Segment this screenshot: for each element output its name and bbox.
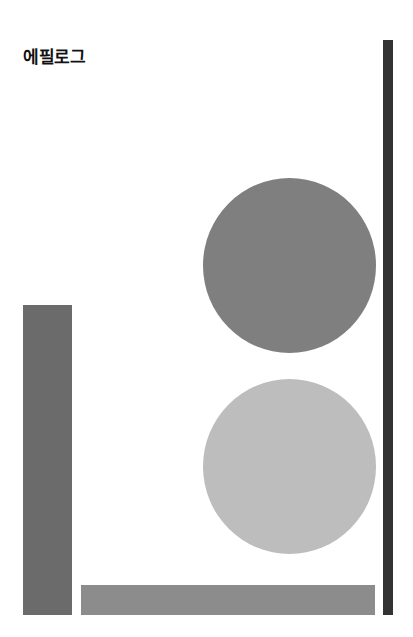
bottom-light-circle — [203, 379, 376, 554]
bottom-gray-rectangle — [81, 585, 375, 615]
vertical-dark-bar — [383, 40, 393, 615]
top-gray-circle — [203, 178, 376, 353]
page-title: 에필로그 — [23, 43, 85, 68]
left-gray-rectangle — [23, 305, 72, 615]
